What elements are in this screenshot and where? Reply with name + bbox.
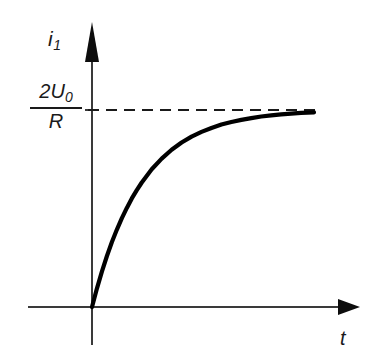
exponential-current-chart [0, 0, 389, 360]
asymptote-numerator-subscript: 0 [65, 89, 73, 105]
asymptote-numerator-coefficient: 2 [39, 80, 50, 102]
y-axis-label-subscript: 1 [53, 37, 61, 53]
chart-svg [0, 0, 389, 360]
current-curve [92, 112, 314, 307]
asymptote-denominator: R [26, 110, 86, 133]
asymptote-value-label: 2U0 R [26, 81, 86, 133]
y-axis-arrowhead-icon [85, 22, 99, 62]
x-axis-arrowhead-icon [338, 299, 360, 315]
asymptote-numerator: 2U0 [26, 81, 86, 106]
y-axis-label-symbol: i [48, 27, 53, 50]
y-axis-label: i1 [48, 28, 61, 52]
fraction-bar [30, 107, 82, 109]
x-axis-label: t [340, 328, 346, 348]
asymptote-numerator-symbol: U [50, 80, 64, 102]
